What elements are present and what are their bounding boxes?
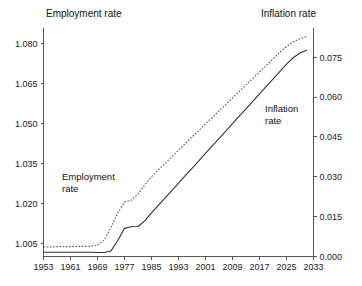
inflation-inline-label: Inflation rate xyxy=(265,103,298,126)
left-axis-title: Employment rate xyxy=(46,8,122,19)
left-axis-ticks: 1.0051.0201.0351.0501.0651.080 xyxy=(15,39,44,248)
bottom-tick-label: 1985 xyxy=(141,262,161,272)
inflation-label-line2: rate xyxy=(265,115,281,126)
bottom-tick-label: 1993 xyxy=(168,262,188,272)
bottom-tick-label: 2025 xyxy=(276,262,296,272)
right-axis-title: Inflation rate xyxy=(261,8,316,19)
left-tick-label: 1.080 xyxy=(15,39,38,49)
line-chart: 1.0051.0201.0351.0501.0651.080 0.0000.01… xyxy=(0,0,362,286)
employment-inline-label: Employment rate xyxy=(62,171,115,194)
employment-rate-line xyxy=(44,37,307,247)
bottom-tick-label: 1977 xyxy=(114,262,134,272)
bottom-axis-ticks: 1953196119691977198519932001200920172025… xyxy=(33,257,323,272)
bottom-tick-label: 2001 xyxy=(195,262,215,272)
chart-series-layer xyxy=(44,37,307,253)
inflation-label-line1: Inflation xyxy=(265,103,298,114)
right-tick-label: 0.045 xyxy=(320,132,343,142)
bottom-tick-label: 2017 xyxy=(249,262,269,272)
right-tick-label: 0.015 xyxy=(320,212,343,222)
left-tick-label: 1.020 xyxy=(15,199,38,209)
bottom-tick-label: 1961 xyxy=(60,262,80,272)
left-tick-label: 1.050 xyxy=(15,119,38,129)
chart-container: 1.0051.0201.0351.0501.0651.080 0.0000.01… xyxy=(0,0,362,286)
right-tick-label: 0.075 xyxy=(320,53,343,63)
employment-label-line1: Employment xyxy=(62,171,115,182)
right-tick-label: 0.000 xyxy=(320,252,343,262)
bottom-tick-label: 2009 xyxy=(222,262,242,272)
bottom-tick-label: 1969 xyxy=(87,262,107,272)
left-tick-label: 1.065 xyxy=(15,79,38,89)
right-tick-label: 0.060 xyxy=(320,92,343,102)
inflation-rate-line xyxy=(44,50,307,252)
bottom-tick-label: 1953 xyxy=(33,262,53,272)
left-tick-label: 1.035 xyxy=(15,159,38,169)
employment-label-line2: rate xyxy=(62,183,78,194)
bottom-tick-label: 2033 xyxy=(303,262,323,272)
right-axis-ticks: 0.0000.0150.0300.0450.0600.075 xyxy=(314,53,343,262)
left-tick-label: 1.005 xyxy=(15,239,38,249)
right-tick-label: 0.030 xyxy=(320,172,343,182)
chart-axes xyxy=(44,28,314,257)
